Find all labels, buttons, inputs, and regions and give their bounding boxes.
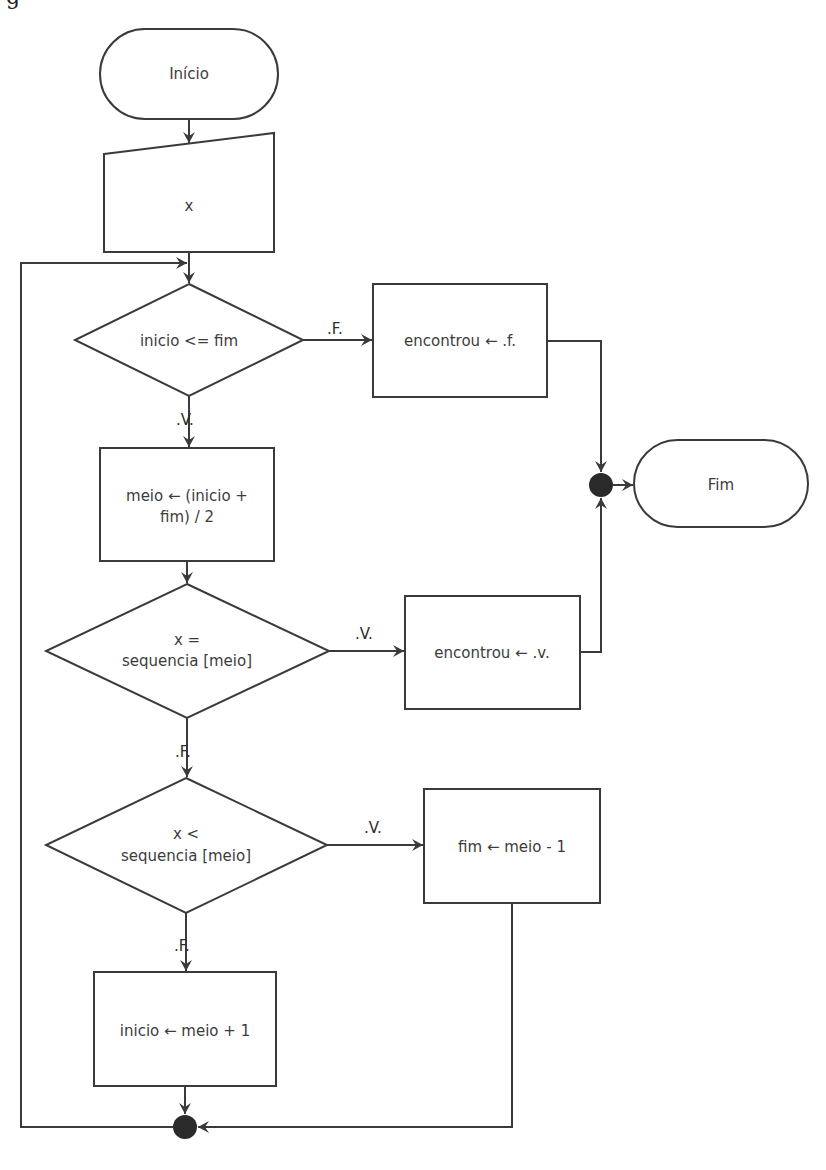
set-false-process: encontrou ← .f. (373, 284, 547, 397)
clipped-heading-text: g (6, 0, 20, 9)
junction-loop-dot (173, 1115, 197, 1139)
cond-loop-label: inicio <= fim (140, 332, 238, 350)
edge-label-less-true: .V. (364, 819, 382, 837)
edge-label-loop-false: .F. (327, 320, 343, 338)
set-false-label: encontrou ← .f. (404, 332, 516, 350)
set-true-process: encontrou ← .v. (405, 596, 580, 709)
edge-label-loop-true: .V. (176, 411, 194, 429)
cond-equal-line2: sequencia [meio] (122, 652, 252, 670)
junction-end-dot (589, 473, 613, 497)
end-terminal: Fim (634, 440, 808, 527)
input-label: x (185, 197, 194, 215)
edge-label-equal-true: .V. (355, 625, 373, 643)
cond-less-decision: x < sequencia [meio] (46, 778, 327, 913)
cond-less-line1: x < (173, 825, 199, 843)
flowchart-canvas: g Início x inicio <= fim .F. encontrou ←… (0, 0, 826, 1170)
inc-start-label: inicio ← meio + 1 (120, 1022, 250, 1040)
dec-end-label: fim ← meio - 1 (458, 838, 566, 856)
cond-loop-decision: inicio <= fim (75, 284, 303, 396)
cond-equal-decision: x = sequencia [meio] (46, 584, 329, 718)
cond-equal-line1: x = (174, 631, 200, 649)
edge-label-equal-false: .F. (175, 743, 191, 761)
edge-label-less-false: .F. (174, 937, 190, 955)
start-terminal: Início (100, 29, 278, 119)
dec-end-process: fim ← meio - 1 (424, 789, 600, 903)
inc-start-process: inicio ← meio + 1 (94, 972, 276, 1086)
input-node: x (104, 133, 274, 252)
cond-less-line2: sequencia [meio] (121, 847, 251, 865)
edge-set-false-junction (547, 341, 601, 472)
mid-label-line1: meio ← (inicio + (126, 487, 248, 505)
end-label: Fim (708, 476, 734, 494)
edge-set-true-junction (580, 498, 601, 652)
mid-process: meio ← (inicio + fim) / 2 (100, 448, 274, 561)
set-true-label: encontrou ← .v. (434, 644, 549, 662)
start-label: Início (169, 65, 209, 83)
mid-label-line2: fim) / 2 (160, 508, 214, 526)
